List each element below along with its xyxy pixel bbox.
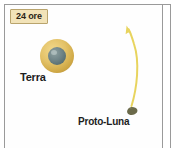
earth-label: Terra bbox=[20, 71, 46, 83]
frame-right-rule bbox=[162, 4, 163, 148]
figure-panel: 24 ore Terra Proto-Luna bbox=[0, 0, 174, 150]
earth-core-highlight bbox=[51, 50, 57, 55]
frame-right-outer-rule bbox=[170, 4, 171, 148]
earth-core bbox=[48, 47, 66, 65]
time-caption-box: 24 ore bbox=[10, 9, 48, 24]
proto-moon-shape bbox=[127, 107, 137, 115]
earth-body bbox=[40, 39, 74, 73]
proto-moon-body bbox=[126, 106, 138, 116]
proto-moon-label: Proto-Luna bbox=[78, 116, 129, 127]
